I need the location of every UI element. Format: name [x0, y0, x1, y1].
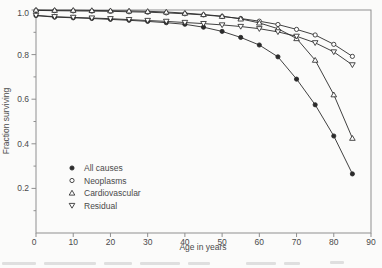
series-neoplasms: [34, 8, 355, 58]
legend-item-neoplasms: Neoplasms: [70, 176, 127, 186]
x-axis-title: Age in years: [179, 242, 226, 252]
y-tick-label: 0.6: [17, 94, 29, 104]
series-all-causes: [34, 13, 355, 176]
x-tick-label: 80: [329, 237, 339, 247]
y-tick-label: 0.4: [17, 139, 29, 149]
legend-label: All causes: [84, 163, 123, 173]
chart-canvas: 01020304050607080900.20.40.60.81.0 All c…: [0, 0, 382, 268]
legend-item-cardiovascular: Cardiovascular: [69, 188, 141, 198]
x-tick-label: 70: [292, 237, 302, 247]
x-tick-label: 30: [143, 237, 153, 247]
series-cardiovascular: [33, 7, 355, 140]
x-tick-label: 90: [366, 237, 376, 247]
survival-chart-figure: 01020304050607080900.20.40.60.81.0 All c…: [0, 0, 382, 268]
legend-label: Residual: [84, 201, 117, 211]
legend-label: Cardiovascular: [84, 188, 141, 198]
data-series: [33, 7, 355, 176]
y-tick-label: 0.8: [17, 50, 29, 60]
axis-ticks: 01020304050607080900.20.40.60.81.0: [17, 8, 376, 247]
x-tick-label: 0: [32, 237, 37, 247]
cropped-caption-fragment: [0, 261, 382, 267]
series-residual: [33, 13, 355, 67]
y-tick-label: 1.0: [17, 8, 29, 18]
y-tick-label: 0.2: [17, 183, 29, 193]
legend-item-residual: Residual: [69, 201, 117, 211]
legend: All causesNeoplasmsCardiovascularResidua…: [69, 163, 141, 211]
x-tick-label: 20: [106, 237, 116, 247]
legend-item-all-causes: All causes: [70, 163, 123, 173]
y-axis-title: Fraction surviving: [1, 87, 11, 154]
x-tick-label: 10: [68, 237, 78, 247]
x-tick-label: 60: [255, 237, 265, 247]
legend-label: Neoplasms: [84, 176, 127, 186]
